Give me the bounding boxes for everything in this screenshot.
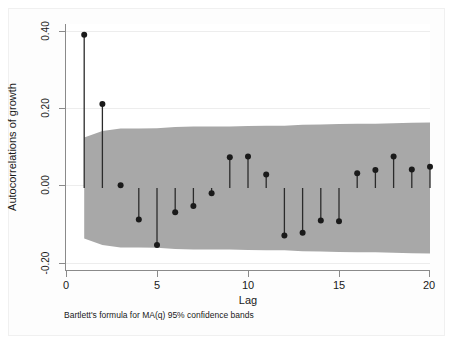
data-point-marker <box>336 218 342 224</box>
y-tick-label-holder--0.20: -0.20 <box>34 263 56 264</box>
y-tick-label-0.00: 0.00 <box>40 175 51 194</box>
y-tick-label-holder-0.00: 0.00 <box>34 185 56 186</box>
y-tick-mark--0.20 <box>59 263 65 264</box>
data-point-marker <box>190 203 196 209</box>
x-tick-mark-0 <box>66 271 67 277</box>
y-tick-label-holder-0.40: 0.40 <box>34 31 56 32</box>
data-point-marker <box>227 154 233 160</box>
confidence-band-note: Bartlett's formula for MA(q) 95% confide… <box>64 310 254 320</box>
data-point-marker <box>391 153 397 159</box>
x-tick-label-10: 10 <box>242 279 254 291</box>
data-point-marker <box>81 32 87 38</box>
y-tick-label-0.40: 0.40 <box>40 21 51 40</box>
data-point-marker <box>263 171 269 177</box>
data-point-marker <box>427 164 433 170</box>
plot-area <box>66 24 430 270</box>
data-point-marker <box>300 230 306 236</box>
data-point-marker <box>245 153 251 159</box>
y-axis-title: Autocorrelations of growth <box>6 83 18 211</box>
x-tick-mark-10 <box>248 271 249 277</box>
data-point-marker <box>172 209 178 215</box>
data-point-marker <box>99 101 105 107</box>
y-tick-label--0.20: -0.20 <box>40 252 51 275</box>
data-point-marker <box>209 190 215 196</box>
x-tick-label-0: 0 <box>63 279 69 291</box>
y-tick-mark-0.20 <box>59 108 65 109</box>
x-axis-title: Lag <box>239 294 257 306</box>
data-point-marker <box>118 182 124 188</box>
data-point-marker <box>318 217 324 223</box>
y-tick-mark-0.40 <box>59 31 65 32</box>
x-tick-label-5: 5 <box>154 279 160 291</box>
x-tick-mark-15 <box>339 271 340 277</box>
data-point-marker <box>354 170 360 176</box>
correlogram-figure: 0.40 0.20 0.00 -0.20 0 5 10 15 20 Autoco… <box>0 0 453 344</box>
data-point-marker <box>154 242 160 248</box>
data-point-marker <box>136 217 142 223</box>
data-point-marker <box>372 167 378 173</box>
autocorrelation-stems <box>66 24 430 270</box>
x-tick-mark-5 <box>157 271 158 277</box>
y-tick-mark-0.00 <box>59 185 65 186</box>
x-tick-label-20: 20 <box>423 279 435 291</box>
y-tick-label-holder-0.20: 0.20 <box>34 108 56 109</box>
data-point-marker <box>281 233 287 239</box>
x-tick-label-15: 15 <box>333 279 345 291</box>
y-tick-label-0.20: 0.20 <box>40 98 51 117</box>
x-tick-mark-20 <box>429 271 430 277</box>
data-point-marker <box>409 167 415 173</box>
y-axis-line <box>65 24 66 271</box>
